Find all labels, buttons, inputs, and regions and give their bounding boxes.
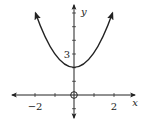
x-tick-label-2: 2 [111, 101, 117, 112]
y-axis-label: y [80, 6, 87, 17]
y-tick-label-3: 3 [64, 49, 70, 60]
parabola-graph: −2 2 3 x y [0, 0, 145, 123]
x-tick-label-neg2: −2 [28, 101, 43, 112]
x-axis-label: x [132, 97, 138, 108]
